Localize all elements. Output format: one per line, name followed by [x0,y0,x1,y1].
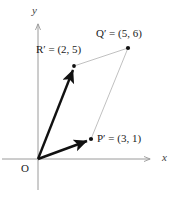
vector-diagram: Q′ = (5, 6) R′ = (2, 5) P′ = (3, 1) O x … [0,0,176,198]
point-dot-q [126,46,130,50]
y-axis-label: y [32,5,37,16]
point-label-p: P′ = (3, 1) [97,133,141,144]
point-dot-r [72,64,76,68]
point-dot-p [89,137,93,141]
x-axis-label: x [162,152,167,163]
guide-line-p-to-q [91,48,128,139]
point-label-q: Q′ = (5, 6) [96,28,142,39]
guide-line-r-to-q [74,48,128,66]
origin-label: O [21,163,29,174]
vector-o-to-p [38,141,87,159]
point-label-r: R′ = (2, 5) [36,44,81,55]
vector-o-to-r [38,70,73,159]
